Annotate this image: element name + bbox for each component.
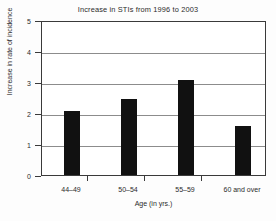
- gridline-y-4: [42, 53, 265, 54]
- bar-chart-figure: Increase in STIs from 1996 to 2003 Incre…: [0, 0, 276, 221]
- y-tick-2: [35, 114, 41, 115]
- gridline-y-3: [42, 84, 265, 85]
- x-tick-2: [144, 176, 145, 181]
- chart-title: Increase in STIs from 1996 to 2003: [0, 5, 276, 14]
- bar-50-54: [121, 99, 137, 176]
- y-tick-label-3: 3: [3, 80, 31, 87]
- x-tick-label-60-and-over: 60 and over: [212, 186, 272, 193]
- y-tick-label-0: 0: [3, 173, 31, 180]
- y-tick-label-5: 5: [3, 18, 31, 25]
- x-tick-label-50-54: 50–54: [98, 186, 158, 193]
- x-tick-3: [201, 176, 202, 181]
- y-tick-label-4: 4: [3, 49, 31, 56]
- y-tick-5: [35, 21, 41, 22]
- x-tick-label-44-49: 44–49: [41, 186, 101, 193]
- x-tick-1: [87, 176, 88, 181]
- plot-area: [41, 21, 266, 176]
- y-tick-label-2: 2: [3, 111, 31, 118]
- y-tick-0: [35, 176, 41, 177]
- y-tick-1: [35, 145, 41, 146]
- y-tick-label-1: 1: [3, 142, 31, 149]
- bar-60-and-over: [235, 126, 251, 175]
- y-tick-3: [35, 83, 41, 84]
- y-tick-4: [35, 52, 41, 53]
- bar-44-49: [64, 111, 80, 175]
- x-axis-title: Age (in yrs.): [41, 200, 266, 207]
- x-tick-label-55-59: 55–59: [155, 186, 215, 193]
- bar-55-59: [178, 80, 194, 175]
